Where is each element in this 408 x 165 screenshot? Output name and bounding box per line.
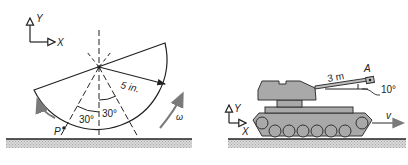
angle-right-label: 30° xyxy=(102,108,117,119)
left-x-axis-label: X xyxy=(56,37,64,48)
tank xyxy=(253,76,374,137)
left-y-axis-label: Y xyxy=(36,13,44,24)
omega-label: ω xyxy=(176,112,183,122)
barrel-angle-label: 10° xyxy=(381,84,396,95)
left-ground xyxy=(6,139,192,148)
velocity-label: v xyxy=(386,110,392,121)
point-a xyxy=(369,79,372,82)
angle-left-label: 30° xyxy=(79,114,94,125)
point-p xyxy=(62,126,66,130)
point-a-label: A xyxy=(363,63,371,74)
point-p-label: P xyxy=(54,126,61,137)
right-y-axis-label: Y xyxy=(234,103,242,114)
right-x-axis-label: X xyxy=(241,126,249,137)
right-figure: Y X xyxy=(228,63,406,148)
right-ground xyxy=(228,139,406,148)
left-figure: Y X 5 in. 30° 30° P ω xyxy=(6,13,192,148)
